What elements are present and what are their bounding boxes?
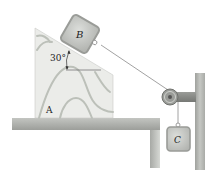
angle-label: 30° [50, 53, 66, 63]
wall [195, 73, 205, 170]
block-b-label: B [75, 29, 83, 40]
pulley-axle [168, 95, 172, 99]
table [12, 118, 160, 168]
block-c-label: C [174, 135, 181, 145]
pulley [162, 89, 196, 105]
table-leg [150, 130, 160, 168]
mechanics-diagram: 30° A B C [0, 0, 213, 178]
wedge-a-label: A [45, 105, 53, 115]
table-top [12, 118, 160, 130]
